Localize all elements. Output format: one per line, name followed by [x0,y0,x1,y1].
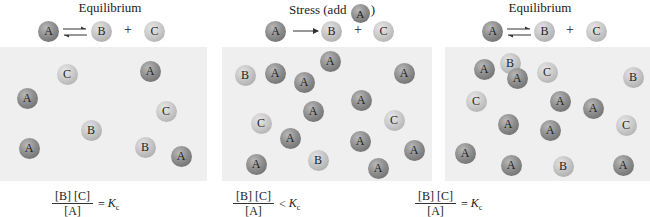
molecule-a: A [455,143,476,164]
molecule-a: A [294,72,315,93]
title-suffix: ) [371,2,375,17]
particle-box-1: CAACBABA [0,47,207,181]
panel-2-title: Stress (add A) [262,0,402,19]
plus-sign: + [566,22,574,38]
reaction-quotient: [B] [C] [A] [415,190,456,217]
molecule-a: A [19,138,40,159]
plus-sign: + [354,22,362,38]
equilibrium-arrows-icon [62,25,88,39]
product-molecule-c: C [586,21,607,42]
molecule-a: A [474,59,495,80]
relation-sign: < [279,197,286,212]
molecule-a: A [507,68,528,89]
panel-3-title: Equilibrium [470,0,610,16]
product-molecule-c: C [144,21,165,42]
molecule-b: B [81,120,102,141]
numerator: [B] [C] [233,190,274,204]
molecule-a: A [171,146,192,167]
panel-2-formula: [B] [C] [A] < Kc [233,190,300,217]
title-prefix: Stress (add [289,2,346,17]
product-molecule-b: B [321,21,342,42]
molecule-c: C [57,64,78,85]
molecule-a: A [550,91,571,112]
panel-3-formula: [B] [C] [A] = Kc [415,190,482,217]
molecule-b: B [235,65,256,86]
molecule-a: A [368,158,389,179]
particle-box-3: ABACBCAAAACAABA [445,47,650,181]
molecule-a: A [498,114,519,135]
molecule-b: B [553,156,574,177]
molecule-a: A [583,98,604,119]
molecule-a: A [303,101,324,122]
molecule-a: A [17,88,38,109]
plus-sign: + [124,22,132,38]
molecule-a: A [280,128,301,149]
panel-1-reaction: A B + C [0,21,220,43]
equilibrium-arrows-icon [506,25,532,39]
molecule-c: C [537,62,558,83]
molecule-b: B [135,137,156,158]
panel-2-reaction: A B + C [220,21,440,43]
denominator: [A] [245,204,262,217]
molecule-c: C [251,113,272,134]
molecule-c: C [156,101,177,122]
panel-1-formula: [B] [C] [A] = Kc [52,190,119,217]
reactant-molecule: A [265,21,286,42]
reactant-molecule: A [482,21,503,42]
denominator: [A] [427,204,444,217]
molecule-c: C [384,110,405,131]
forward-arrow-icon [292,27,320,35]
product-molecule-c: C [373,21,394,42]
product-molecule-b: B [534,21,555,42]
equilibrium-constant: Kc [108,196,120,212]
denominator: [A] [64,204,81,217]
molecule-b: B [623,67,644,88]
particle-box-2: BAAAAAACACAAABA [222,47,432,181]
reaction-quotient: [B] [C] [A] [233,190,274,217]
panel-1-title: Equilibrium [40,0,180,16]
molecule-a: A [394,63,415,84]
molecule-c: C [616,115,637,136]
numerator: [B] [C] [52,190,93,204]
relation-sign: = [98,197,105,212]
molecule-a: A [613,155,634,176]
panel-3-reaction: A B + C [440,21,650,43]
equilibrium-constant: Kc [471,196,483,212]
molecule-a: A [501,155,522,176]
molecule-a: A [246,154,267,175]
equilibrium-constant: Kc [289,196,301,212]
numerator: [B] [C] [415,190,456,204]
molecule-a: A [404,140,425,161]
reaction-quotient: [B] [C] [A] [52,190,93,217]
molecule-a: A [351,90,372,111]
molecule-c: C [466,91,487,112]
relation-sign: = [461,197,468,212]
molecule-a: A [265,63,286,84]
molecule-a: A [140,61,161,82]
molecule-b: B [308,150,329,171]
molecule-a: A [350,131,371,152]
molecule-a: A [320,51,341,72]
reactant-molecule: A [38,21,59,42]
product-molecule-b: B [91,21,112,42]
molecule-a: A [540,120,561,141]
